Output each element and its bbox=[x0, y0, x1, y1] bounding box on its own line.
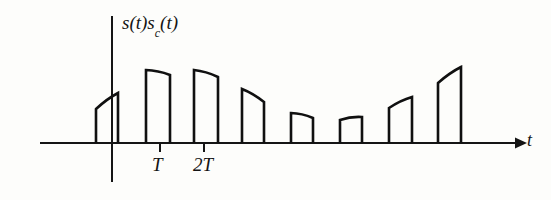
time-axis-arrow-icon bbox=[515, 138, 527, 149]
y-axis-label-subscript: c bbox=[155, 26, 160, 40]
pulse-1 bbox=[146, 70, 170, 143]
y-axis-label-main: s(t)s bbox=[122, 12, 155, 33]
waveform-plot bbox=[0, 0, 551, 200]
pulse-7 bbox=[438, 67, 461, 143]
tick-label-T: T bbox=[152, 155, 163, 174]
pulse-2 bbox=[194, 70, 218, 143]
pulse-5 bbox=[340, 117, 362, 143]
tick-label-2T: 2T bbox=[193, 155, 213, 174]
y-axis-label-suffix: (t) bbox=[160, 12, 178, 33]
pulse-6 bbox=[389, 97, 412, 143]
pulse-4 bbox=[291, 113, 313, 143]
pulse-3 bbox=[242, 89, 264, 143]
time-axis-label: t bbox=[527, 131, 532, 149]
figure-container: s(t)sc(t) T 2T t bbox=[0, 0, 551, 200]
pulse-0 bbox=[96, 93, 118, 143]
y-axis-label: s(t)sc(t) bbox=[122, 13, 178, 36]
pulse-train-group bbox=[96, 67, 461, 143]
tick-group bbox=[160, 143, 204, 152]
